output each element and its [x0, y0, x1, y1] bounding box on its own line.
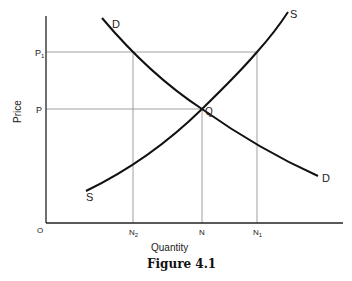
x-tick-n2: N2	[129, 228, 139, 238]
supply-curve	[86, 12, 288, 191]
supply-demand-diagram: D D S S Q P1 P N2 N N1 O Price Quantity …	[0, 0, 352, 281]
origin-label: O	[37, 226, 43, 235]
y-tick-p: P	[36, 105, 42, 115]
x-tick-n1: N1	[253, 228, 263, 238]
figure-caption: Figure 4.1	[147, 257, 216, 271]
supply-label-top: S	[290, 8, 297, 20]
demand-curve	[102, 18, 318, 176]
demand-label-top: D	[112, 18, 120, 30]
equilibrium-label: Q	[205, 106, 213, 117]
x-axis-label: Quantity	[151, 242, 188, 253]
demand-label-bottom: D	[322, 172, 330, 184]
guide-lines	[46, 52, 257, 223]
y-axis-label: Price	[12, 100, 23, 123]
y-tick-p1: P1	[35, 48, 45, 59]
supply-label-bottom: S	[86, 191, 93, 203]
x-tick-n: N	[199, 228, 205, 237]
